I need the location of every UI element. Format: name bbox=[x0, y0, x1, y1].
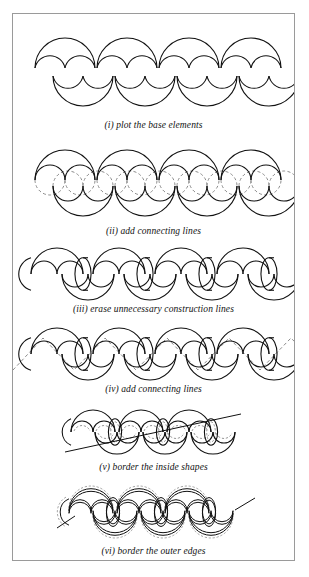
panel-step-v bbox=[13, 406, 294, 460]
caption-step-ii: (ii) add connecting lines bbox=[13, 226, 294, 236]
figure-border: (i) plot the base elements (ii) add conn… bbox=[12, 13, 295, 561]
diagram-step-v bbox=[13, 406, 294, 460]
panel-step-ii bbox=[13, 142, 294, 224]
diagram-step-i bbox=[13, 30, 294, 118]
diagram-step-vi bbox=[13, 484, 294, 544]
caption-step-v: (v) border the inside shapes bbox=[13, 462, 294, 472]
caption-step-iv: (iv) add connecting lines bbox=[13, 384, 294, 394]
panel-step-vi bbox=[13, 484, 294, 544]
diagram-step-iv bbox=[13, 326, 294, 382]
caption-step-i: (i) plot the base elements bbox=[13, 120, 294, 130]
caption-step-iii: (iii) erase unnecessary construction lin… bbox=[13, 304, 294, 314]
figure-page: (i) plot the base elements (ii) add conn… bbox=[0, 0, 309, 577]
diagram-step-iii bbox=[13, 246, 294, 302]
panel-step-i bbox=[13, 30, 294, 118]
panel-step-iv bbox=[13, 326, 294, 382]
caption-step-vi: (vi) border the outer edges bbox=[13, 546, 294, 556]
panel-step-iii bbox=[13, 246, 294, 302]
diagram-step-ii bbox=[13, 142, 294, 224]
